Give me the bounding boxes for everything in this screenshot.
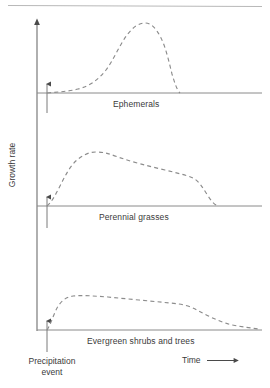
- curve-perennial-grasses: [47, 152, 218, 206]
- panel-label-evergreen-shrubs-and-trees: Evergreen shrubs and trees: [87, 336, 195, 346]
- y-axis-label: Growth rate: [7, 130, 17, 200]
- x-axis-label: Time: [182, 355, 201, 365]
- growth-rate-figure: [0, 0, 270, 388]
- precipitation-event-annotation: Precipitation event: [10, 356, 94, 378]
- panel-label-ephemerals: Ephemerals: [113, 99, 159, 109]
- top-rule: [8, 6, 262, 7]
- y-axis-arrowhead: [34, 19, 40, 26]
- figure-root: Ephemerals Perennial grasses Evergreen s…: [0, 0, 270, 388]
- precipitation-event-line-1: Precipitation: [10, 356, 94, 367]
- panel-label-perennial-grasses: Perennial grasses: [99, 212, 169, 222]
- curve-ephemerals: [47, 23, 180, 93]
- curve-evergreen-shrubs-and-trees: [47, 296, 258, 330]
- precipitation-event-line-2: event: [10, 367, 94, 378]
